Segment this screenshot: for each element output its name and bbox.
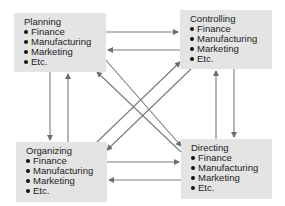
arrow-controlling-to-organizing [107, 69, 191, 150]
bullet-icon [191, 186, 195, 190]
node-planning: Planning Finance Manufacturing Marketing… [14, 13, 106, 72]
list-item: Etc. [191, 183, 272, 193]
bullet-icon [26, 179, 30, 183]
bullet-icon [26, 169, 30, 173]
bullet-icon [191, 176, 195, 180]
node-items: Finance Manufacturing Marketing Etc. [26, 156, 107, 196]
list-item: Etc. [26, 186, 107, 196]
bullet-icon [24, 40, 28, 44]
bullet-icon [26, 189, 30, 193]
node-directing: Directing Finance Manufacturing Marketin… [181, 139, 272, 199]
bullet-icon [190, 37, 194, 41]
bullet-icon [191, 156, 195, 160]
list-item: Etc. [24, 57, 106, 67]
arrow-planning-to-directing [104, 58, 181, 146]
bullet-icon [190, 27, 194, 31]
node-organizing: Organizing Finance Manufacturing Marketi… [16, 142, 107, 202]
arrow-directing-to-planning [97, 72, 181, 152]
bullet-icon [24, 60, 28, 64]
bullet-icon [191, 166, 195, 170]
node-items: Finance Manufacturing Marketing Etc. [190, 24, 272, 64]
bullet-icon [24, 30, 28, 34]
bullet-icon [24, 50, 28, 54]
bullet-icon [26, 159, 30, 163]
list-item: Etc. [190, 54, 272, 64]
node-items: Finance Manufacturing Marketing Etc. [191, 153, 272, 193]
node-items: Finance Manufacturing Marketing Etc. [24, 27, 106, 67]
bullet-icon [190, 47, 194, 51]
bullet-icon [190, 57, 194, 61]
node-controlling: Controlling Finance Manufacturing Market… [180, 10, 272, 69]
